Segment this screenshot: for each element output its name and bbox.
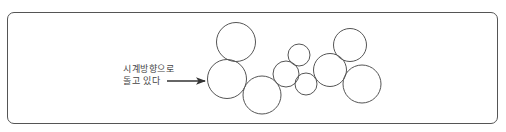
circle-1: [217, 23, 256, 62]
circle-group: [208, 23, 382, 115]
circle-2: [208, 60, 247, 99]
circle-7: [314, 54, 347, 87]
circle-8: [334, 29, 367, 62]
circle-6: [295, 73, 317, 95]
circle-9: [343, 65, 381, 103]
circles-diagram: [0, 0, 506, 132]
circle-5: [288, 44, 310, 66]
